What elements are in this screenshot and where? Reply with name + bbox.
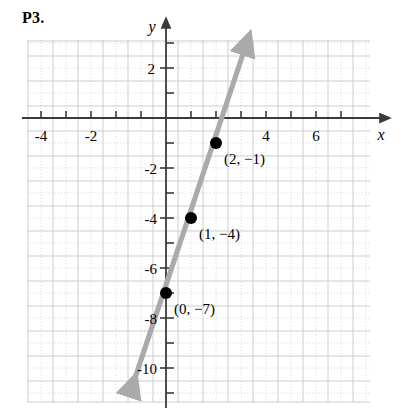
y-axis-ticks bbox=[160, 43, 174, 393]
y-tick-label-neg8: -8 bbox=[145, 311, 158, 327]
x-tick-label-neg4: -4 bbox=[35, 128, 48, 144]
x-axis-label: x bbox=[376, 126, 384, 143]
coordinate-plane-graph: -4 -2 4 6 2 -2 -4 -6 -8 -10 x y (2, −1) … bbox=[0, 0, 401, 418]
grid-major bbox=[27, 40, 370, 402]
point-label-0-neg7: (0, −7) bbox=[174, 301, 215, 318]
x-tick-label-4: 4 bbox=[262, 128, 270, 144]
point-label-2-neg1: (2, −1) bbox=[224, 151, 265, 168]
y-axis-label: y bbox=[146, 18, 156, 36]
y-tick-label-neg10: -10 bbox=[137, 361, 157, 377]
x-tick-label-6: 6 bbox=[312, 128, 320, 144]
y-tick-label-2: 2 bbox=[148, 61, 156, 77]
y-tick-label-neg6: -6 bbox=[145, 261, 158, 277]
x-axis-ticks bbox=[41, 111, 341, 118]
point-label-1-neg4: (1, −4) bbox=[199, 226, 240, 243]
figure-container: P3. bbox=[0, 0, 401, 418]
data-point bbox=[160, 287, 172, 299]
y-tick-label-neg2: -2 bbox=[145, 161, 158, 177]
data-point bbox=[185, 212, 197, 224]
x-tick-label-neg2: -2 bbox=[85, 128, 98, 144]
data-point bbox=[210, 137, 222, 149]
y-tick-label-neg4: -4 bbox=[145, 211, 158, 227]
